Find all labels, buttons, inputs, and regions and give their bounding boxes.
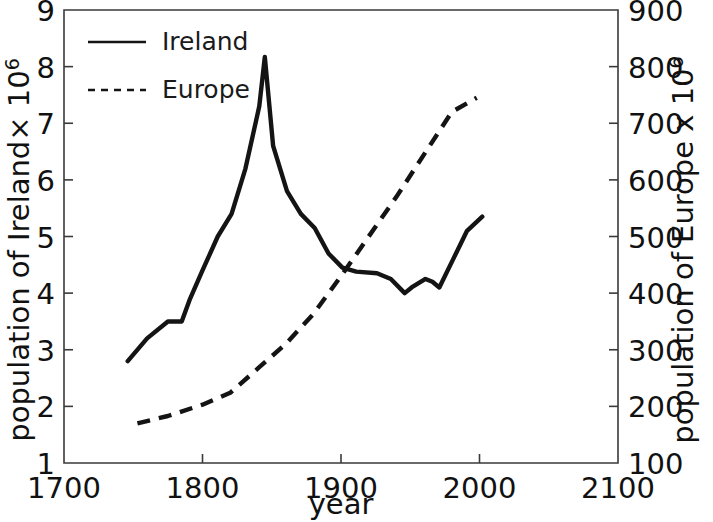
y-axis-left-tick-labels: 123456789 xyxy=(37,0,55,481)
y-right-tick-label: 900 xyxy=(628,0,683,28)
y-left-tick-label: 2 xyxy=(37,390,55,424)
y-left-tick-label: 9 xyxy=(37,0,55,28)
x-tick-label: 2000 xyxy=(443,471,517,505)
y-axis-left-title-text: population of Ireland× 10 xyxy=(2,70,36,441)
y-axis-left-title: population of Ireland× 106 xyxy=(1,58,36,442)
legend-label-europe: Europe xyxy=(162,75,250,104)
series-line-europe xyxy=(137,98,476,424)
x-axis-ticks xyxy=(203,454,480,463)
y-right-tick-label: 100 xyxy=(628,447,683,481)
axes-frame xyxy=(64,10,618,463)
y-left-tick-label: 3 xyxy=(37,334,55,368)
chart-legend: Ireland Europe xyxy=(88,27,250,104)
y-axis-right-title-exponent: 6 xyxy=(665,56,687,68)
y-axis-right-title-text: population of Europe x 10 xyxy=(666,68,700,443)
x-axis-title: year xyxy=(309,487,374,521)
plot-border xyxy=(64,10,618,463)
data-series-group xyxy=(128,57,483,423)
y-axis-right-title: population of Europe x 106 xyxy=(665,56,700,443)
x-tick-label: 1800 xyxy=(166,471,240,505)
y-left-tick-label: 1 xyxy=(37,447,55,481)
y-left-tick-label: 6 xyxy=(37,164,55,198)
y-left-tick-label: 7 xyxy=(37,107,55,141)
y-axis-left-title-exponent: 6 xyxy=(1,58,23,70)
y-axis-left-ticks xyxy=(64,67,73,407)
y-axis-right-ticks xyxy=(609,67,618,407)
y-left-tick-label: 5 xyxy=(37,221,55,255)
y-left-tick-label: 8 xyxy=(37,51,55,85)
y-left-tick-label: 4 xyxy=(37,277,55,311)
population-line-chart: 17001800190020002100 123456789 100200300… xyxy=(0,0,713,522)
legend-label-ireland: Ireland xyxy=(162,27,248,56)
chart-figure: 17001800190020002100 123456789 100200300… xyxy=(0,0,713,522)
